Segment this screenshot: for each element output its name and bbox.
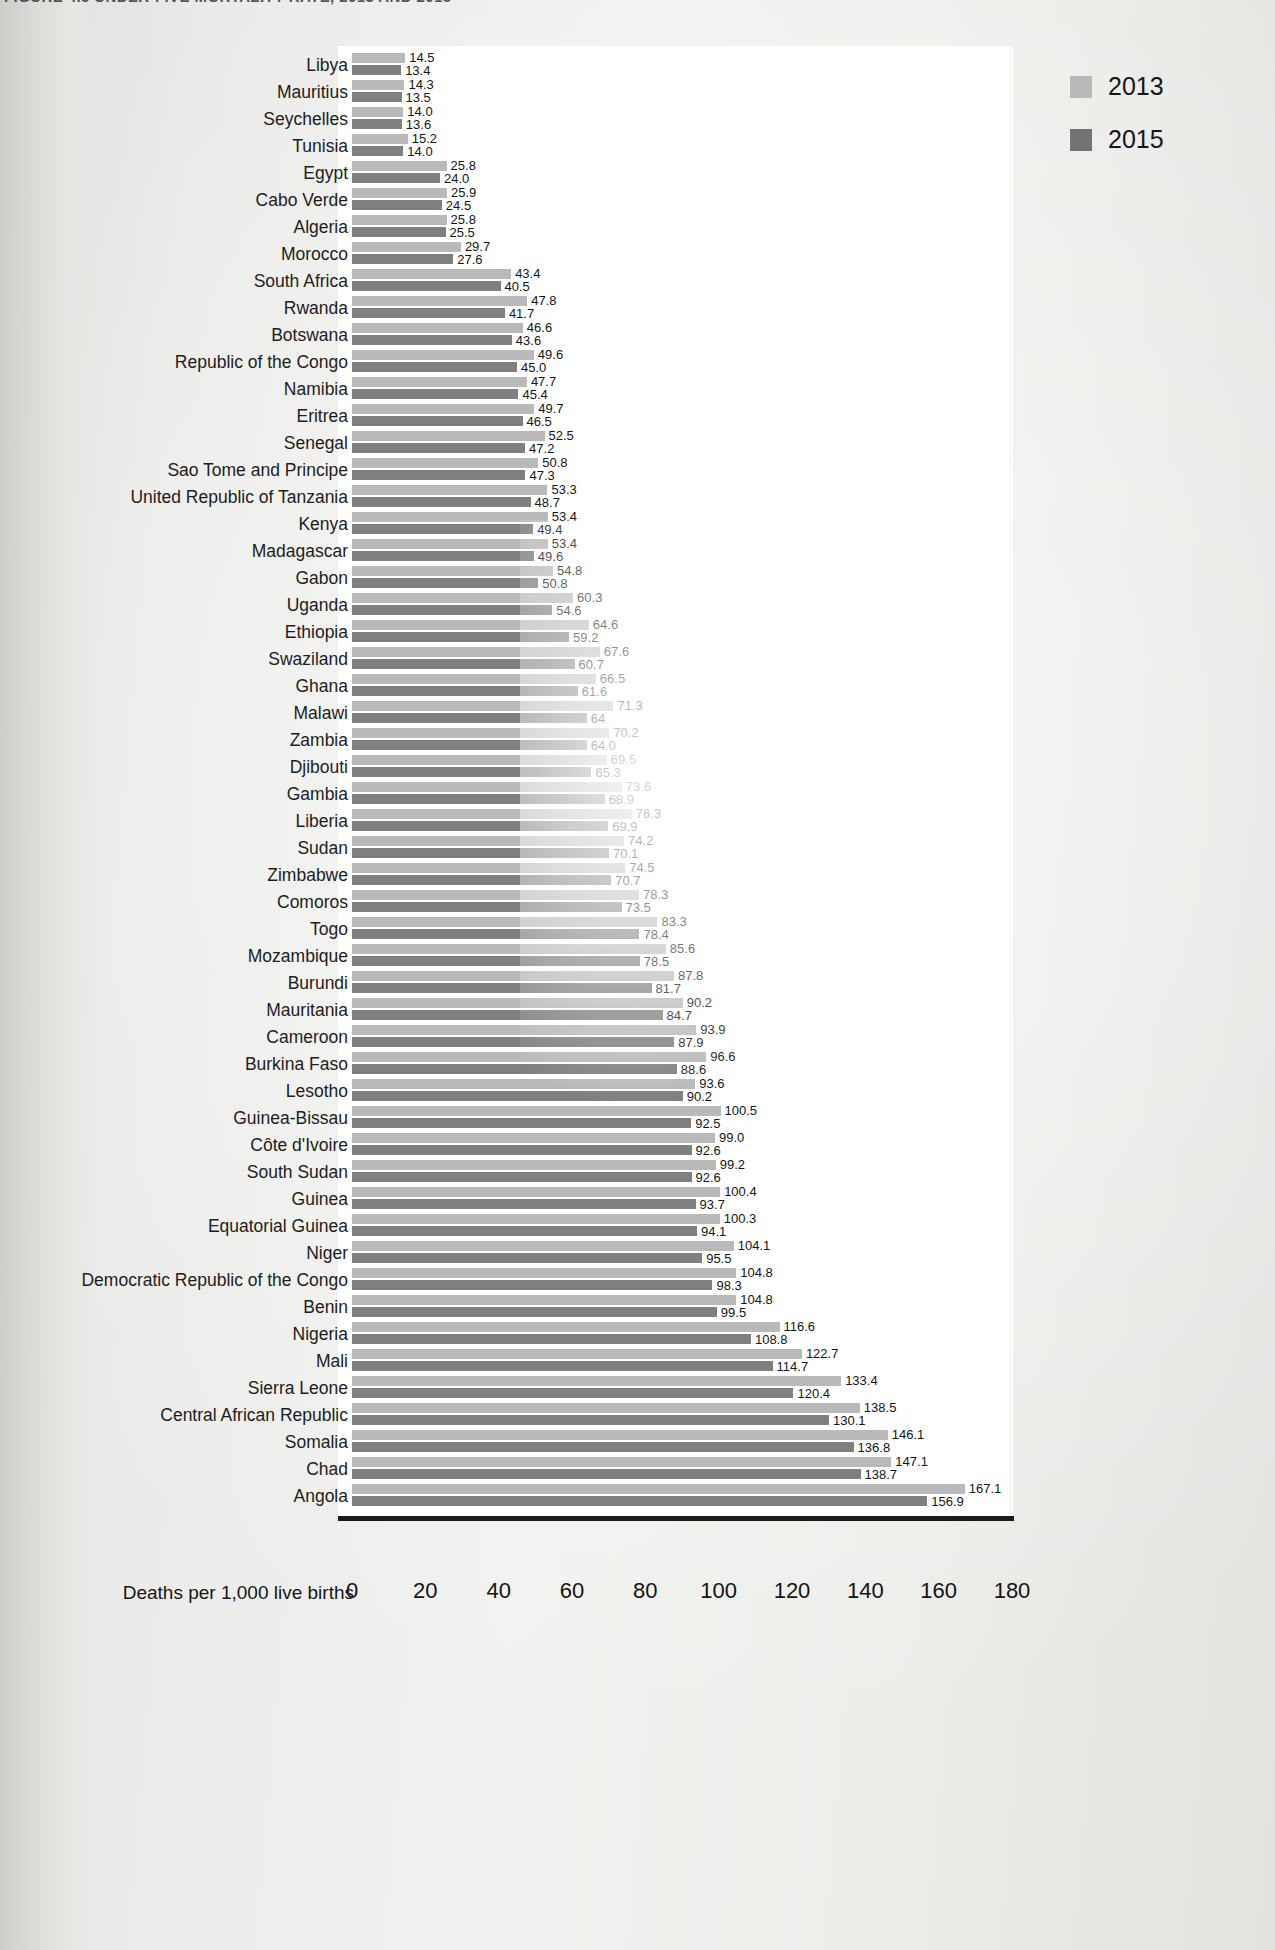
value-label-2015: 92.5 (695, 1117, 720, 1130)
chart-row: Mauritius14.313.5 (86, 79, 1186, 106)
bar-2015 (352, 227, 446, 237)
category-label: Lesotho (0, 1079, 348, 1103)
legend-item-2013: 2013 (1070, 72, 1164, 101)
chart-row: Côte d'Ivoire99.092.6 (86, 1132, 1186, 1159)
chart-row: South Africa43.440.5 (86, 268, 1186, 295)
category-label: Cabo Verde (0, 188, 348, 212)
bar-2015 (352, 632, 569, 642)
category-label: Botswana (0, 323, 348, 347)
bar-2013 (352, 1187, 720, 1197)
value-label-2015: 45.4 (522, 388, 547, 401)
x-tick-120: 120 (774, 1578, 811, 1604)
row-bars: 49.645.0 (352, 349, 1172, 376)
row-bars: 74.570.7 (352, 862, 1172, 889)
bar-2015 (352, 551, 534, 561)
row-bars: 47.745.4 (352, 376, 1172, 403)
row-bars: 87.881.7 (352, 970, 1172, 997)
value-label-2015: 43.6 (516, 334, 541, 347)
bar-2013 (352, 458, 538, 468)
value-label-2015: 54.6 (556, 604, 581, 617)
category-label: Somalia (0, 1430, 348, 1454)
bar-2015 (352, 281, 501, 291)
row-bars: 15.214.0 (352, 133, 1172, 160)
value-label-2013: 67.6 (604, 645, 629, 658)
row-bars: 99.092.6 (352, 1132, 1172, 1159)
category-label: Seychelles (0, 107, 348, 131)
chart-row: Comoros78.373.5 (86, 889, 1186, 916)
bar-2015 (352, 146, 403, 156)
x-axis: Deaths per 1,000 live births 02040608010… (86, 1560, 1246, 1620)
bar-2013 (352, 242, 461, 252)
value-label-2015: 156.9 (931, 1495, 964, 1508)
bar-2013 (352, 161, 447, 171)
chart-row: Eritrea49.746.5 (86, 403, 1186, 430)
bar-2015 (352, 524, 533, 534)
value-label-2013: 76.3 (636, 807, 661, 820)
value-label-2015: 130.1 (833, 1414, 866, 1427)
category-label: Libya (0, 53, 348, 77)
category-label: Togo (0, 917, 348, 941)
value-label-2015: 46.5 (527, 415, 552, 428)
legend-item-2015: 2015 (1070, 125, 1164, 154)
bar-2013 (352, 134, 408, 144)
value-label-2015: 47.3 (529, 469, 554, 482)
bar-2015 (352, 821, 608, 831)
x-tick-40: 40 (486, 1578, 510, 1604)
row-bars: 67.660.7 (352, 646, 1172, 673)
row-bars: 71.364 (352, 700, 1172, 727)
chart-row: Ghana66.561.6 (86, 673, 1186, 700)
bar-2015 (352, 1442, 854, 1452)
value-label-2015: 84.7 (667, 1009, 692, 1022)
value-label-2013: 100.5 (725, 1104, 758, 1117)
bar-2013 (352, 620, 589, 630)
chart-row: Lesotho93.690.2 (86, 1078, 1186, 1105)
bar-2015 (352, 902, 622, 912)
x-tick-140: 140 (847, 1578, 884, 1604)
bar-2013 (352, 1133, 715, 1143)
bar-2015 (352, 578, 538, 588)
row-bars: 100.394.1 (352, 1213, 1172, 1240)
row-bars: 104.898.3 (352, 1267, 1172, 1294)
value-label-2015: 45.0 (521, 361, 546, 374)
chart-row: Cameroon93.987.9 (86, 1024, 1186, 1051)
chart-row: Gabon54.850.8 (86, 565, 1186, 592)
figure-title: FIGURE 4.5 UNDER-FIVE MORTALITY RATE, 20… (0, 0, 1275, 5)
bar-2013 (352, 701, 613, 711)
chart-row: Sao Tome and Principe50.847.3 (86, 457, 1186, 484)
bar-2015 (352, 740, 587, 750)
bar-2015 (352, 173, 440, 183)
category-label: Eritrea (0, 404, 348, 428)
bar-2013 (352, 377, 527, 387)
value-label-2015: 99.5 (721, 1306, 746, 1319)
value-label-2013: 147.1 (895, 1455, 928, 1468)
chart-row: Algeria25.825.5 (86, 214, 1186, 241)
bar-2013 (352, 1025, 696, 1035)
value-label-2013: 167.1 (969, 1482, 1002, 1495)
value-label-2015: 61.6 (582, 685, 607, 698)
row-bars: 78.373.5 (352, 889, 1172, 916)
x-tick-180: 180 (994, 1578, 1031, 1604)
bar-2013 (352, 971, 674, 981)
bar-2013 (352, 566, 553, 576)
value-label-2015: 78.4 (643, 928, 668, 941)
category-label: Tunisia (0, 134, 348, 158)
value-label-2015: 13.5 (406, 91, 431, 104)
bar-2013 (352, 1268, 736, 1278)
row-bars: 122.7114.7 (352, 1348, 1172, 1375)
category-label: Kenya (0, 512, 348, 536)
bar-2015 (352, 1388, 793, 1398)
value-label-2015: 94.1 (701, 1225, 726, 1238)
value-label-2015: 41.7 (509, 307, 534, 320)
chart-row: Nigeria116.6108.8 (86, 1321, 1186, 1348)
row-bars: 46.643.6 (352, 322, 1172, 349)
value-label-2013: 100.3 (724, 1212, 757, 1225)
value-label-2015: 65.3 (595, 766, 620, 779)
row-bars: 66.561.6 (352, 673, 1172, 700)
category-label: Niger (0, 1241, 348, 1265)
bar-2013 (352, 296, 527, 306)
bar-2015 (352, 875, 611, 885)
value-label-2015: 70.1 (613, 847, 638, 860)
category-label: Zimbabwe (0, 863, 348, 887)
value-label-2013: 96.6 (710, 1050, 735, 1063)
category-label: Namibia (0, 377, 348, 401)
